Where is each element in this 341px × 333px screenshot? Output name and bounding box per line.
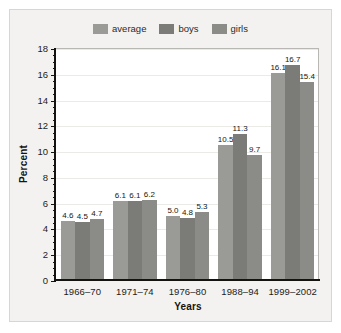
y-tick-label: 14 (37, 96, 48, 106)
y-tick-label: 0 (43, 276, 48, 286)
y-axis-line (54, 48, 56, 281)
y-axis-title: Percent (18, 145, 29, 183)
bar-average[interactable]: 10.5 (218, 145, 233, 280)
bar-average[interactable]: 5.0 (166, 216, 181, 280)
bar-average[interactable]: 6.1 (113, 201, 128, 280)
bar-value-label: 4.5 (77, 213, 88, 221)
legend-label-boys: boys (178, 24, 198, 34)
bar-value-label: 11.3 (233, 125, 248, 133)
bar-value-label: 6.1 (115, 192, 126, 200)
y-tick-label: 16 (37, 70, 48, 80)
bar-average[interactable]: 4.6 (61, 221, 76, 280)
bar-girls[interactable]: 15.4 (300, 82, 315, 280)
legend-entry-girls[interactable]: girls (212, 24, 248, 34)
legend-swatch-average (93, 24, 108, 34)
x-tick-label: 1966–70 (63, 286, 101, 297)
legend-entry-average[interactable]: average (93, 24, 146, 34)
bar-group: 10.511.39.7 (214, 49, 267, 280)
bar-value-label: 4.7 (91, 210, 102, 218)
bar-boys[interactable]: 6.1 (128, 201, 143, 280)
x-tick-label: 1971–74 (116, 286, 154, 297)
bar-value-label: 4.8 (182, 209, 193, 217)
y-tick-label: 12 (37, 122, 48, 132)
bar-group: 16.116.715.4 (266, 49, 319, 280)
x-axis-line (54, 279, 320, 281)
bar-group: 6.16.16.2 (109, 49, 162, 280)
bar-boys[interactable]: 4.5 (75, 222, 90, 280)
legend-swatch-boys (159, 24, 174, 34)
legend-swatch-girls (212, 24, 227, 34)
bar-value-label: 4.6 (62, 212, 73, 220)
y-tick-major (51, 281, 56, 282)
legend-label-average: average (112, 24, 146, 34)
legend-label-girls: girls (231, 24, 248, 34)
bar-boys[interactable]: 16.7 (285, 65, 300, 280)
y-tick-label: 18 (37, 44, 48, 54)
y-tick-label: 4 (43, 225, 48, 235)
chart-figure: average boys girls Percent 4.64.54.76.16… (9, 9, 332, 322)
bar-value-label: 16.1 (270, 64, 286, 72)
bar-boys[interactable]: 4.8 (180, 218, 195, 280)
bar-value-label: 6.1 (129, 192, 140, 200)
plot-area: 4.64.54.76.16.16.25.04.85.310.511.39.716… (56, 48, 319, 280)
bar-value-label: 10.5 (218, 136, 234, 144)
bar-value-label: 5.3 (196, 203, 207, 211)
bar-average[interactable]: 16.1 (271, 73, 286, 281)
y-tick-label: 6 (43, 199, 48, 209)
bar-group: 5.04.85.3 (161, 49, 214, 280)
bar-boys[interactable]: 11.3 (233, 134, 248, 280)
plot-inner: 4.64.54.76.16.16.25.04.85.310.511.39.716… (56, 49, 318, 280)
chart-legend: average boys girls (10, 24, 331, 34)
bar-value-label: 6.2 (144, 191, 155, 199)
bar-girls[interactable]: 4.7 (90, 219, 105, 280)
bar-value-label: 5.0 (167, 207, 178, 215)
bar-value-label: 16.7 (285, 56, 301, 64)
x-axis-title: Years (174, 301, 202, 312)
x-tick-label: 1976–80 (169, 286, 207, 297)
y-tick-label: 2 (43, 250, 48, 260)
legend-entry-boys[interactable]: boys (159, 24, 198, 34)
bar-girls[interactable]: 5.3 (195, 212, 210, 280)
y-tick-label: 10 (37, 147, 48, 157)
bar-girls[interactable]: 6.2 (142, 200, 157, 280)
bar-value-label: 15.4 (299, 73, 315, 81)
bar-group: 4.64.54.7 (56, 49, 109, 280)
x-tick-label: 1999–2002 (268, 286, 316, 297)
bar-girls[interactable]: 9.7 (247, 155, 262, 280)
x-tick-label: 1988–94 (221, 286, 259, 297)
y-tick-label: 8 (43, 173, 48, 183)
bar-value-label: 9.7 (249, 146, 260, 154)
